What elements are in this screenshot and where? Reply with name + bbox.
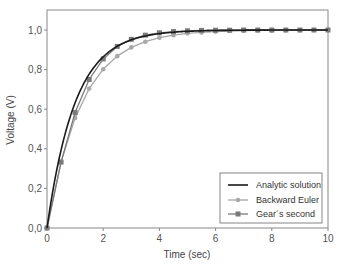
backward-euler-marker: [115, 54, 120, 59]
x-axis-ticks: 0246810: [44, 228, 334, 244]
y-tick-label: 1,0: [28, 25, 42, 36]
voltage-chart: 0,00,20,40,60,81,0 0246810 Voltage (V) T…: [0, 0, 341, 271]
y-tick-label: 0,8: [28, 64, 42, 75]
backward-euler-marker: [129, 45, 134, 50]
backward-euler-marker: [87, 86, 92, 91]
y-tick-label: 0,0: [28, 223, 42, 234]
x-axis-label: Time (sec): [164, 249, 211, 260]
legend-backward-euler-label: Backward Euler: [256, 195, 319, 205]
backward-euler-marker: [101, 67, 106, 72]
legend-analytic-label: Analytic solution: [256, 180, 321, 190]
y-tick-label: 0,6: [28, 104, 42, 115]
legend: Analytic solution Backward Euler Gear´s …: [220, 173, 322, 223]
x-tick-label: 2: [100, 233, 106, 244]
y-tick-label: 0,2: [28, 183, 42, 194]
y-tick-label: 0,4: [28, 143, 42, 154]
gear-marker: [73, 110, 78, 115]
y-axis-ticks: 0,00,20,40,60,81,0: [28, 25, 47, 234]
legend-backward-euler-marker-icon: [236, 198, 241, 203]
x-tick-label: 0: [44, 233, 50, 244]
backward-euler-marker: [143, 39, 148, 44]
x-tick-label: 8: [269, 233, 275, 244]
x-tick-label: 10: [322, 233, 334, 244]
x-tick-label: 4: [157, 233, 163, 244]
legend-gear-marker-icon: [236, 212, 241, 217]
y-axis-label: Voltage (V): [5, 95, 16, 144]
legend-gear-label: Gear´s second: [256, 209, 315, 219]
x-tick-label: 6: [213, 233, 219, 244]
backward-euler-marker: [157, 35, 162, 40]
